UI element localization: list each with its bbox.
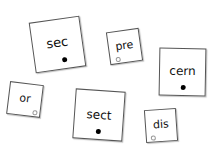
word-card-sect[interactable]: sect (72, 88, 125, 141)
open-circle-icon (115, 57, 121, 63)
word-card-sec[interactable]: sec (29, 16, 87, 74)
filled-dot-icon (96, 129, 101, 134)
word-card-or[interactable]: or (6, 81, 44, 118)
word-card-pre[interactable]: pre (106, 28, 143, 65)
card-word: dis (146, 117, 177, 132)
open-circle-icon (151, 135, 156, 140)
card-word: or (8, 90, 41, 107)
filled-dot-icon (62, 57, 68, 63)
filled-dot-icon (181, 85, 186, 90)
card-word: sec (32, 32, 83, 54)
card-word: sect (75, 106, 124, 123)
open-circle-icon (32, 110, 38, 116)
word-card-dis[interactable]: dis (144, 108, 178, 143)
word-card-cern[interactable]: cern (159, 48, 207, 97)
card-word: cern (160, 64, 205, 79)
card-word: pre (108, 37, 141, 54)
